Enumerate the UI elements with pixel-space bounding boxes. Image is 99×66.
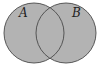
set-b-label: B — [71, 6, 81, 20]
set-a-label: A — [18, 6, 28, 20]
venn-diagram: A B — [0, 0, 99, 66]
shaded-union — [4, 3, 96, 63]
